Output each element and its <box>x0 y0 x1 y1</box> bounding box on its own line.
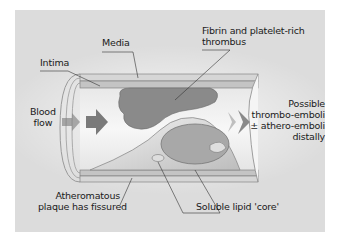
label-intima: Intima <box>40 57 69 68</box>
label-media: Media <box>102 37 130 48</box>
label-plaque-fissured: Atheromatous plaque has fissured <box>38 190 120 212</box>
label-emboli: Possible thrombo-emboli ± athero-emboli … <box>250 98 325 142</box>
lipid-pocket <box>152 155 164 162</box>
media-layer <box>80 74 258 81</box>
label-lipid-core: Soluble lipid 'core' <box>196 201 279 212</box>
label-blood-flow: Blood flow <box>30 106 56 128</box>
label-thrombus: Fibrin and platelet-rich thrombus <box>202 25 305 47</box>
intima-layer <box>80 81 258 88</box>
